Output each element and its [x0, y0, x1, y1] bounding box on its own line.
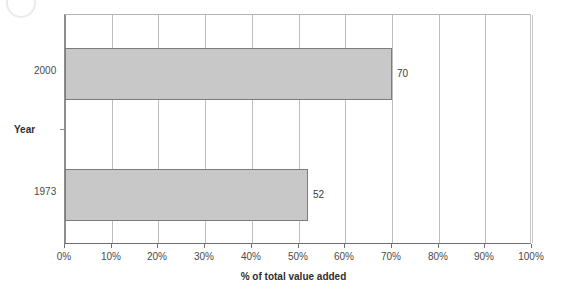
x-axis-tick-mark-20%: [157, 244, 158, 248]
x-axis-tick-label-30%: 30%: [194, 252, 214, 262]
bar-1973[interactable]: [65, 169, 308, 221]
bar-value-label-1973: 52: [313, 190, 324, 200]
plot-area: [64, 14, 531, 244]
gridline-100%: [532, 15, 533, 243]
x-axis-tick-label-100%: 100%: [518, 252, 544, 262]
x-axis-title: % of total value added: [0, 272, 563, 282]
x-axis-tick-label-80%: 80%: [428, 252, 448, 262]
x-axis-tick-mark-90%: [484, 244, 485, 248]
x-axis-tick-mark-80%: [438, 244, 439, 248]
horizontal-bar-chart: Year 2000 1973 70 52 0%10%20%30%40%50%60…: [0, 0, 563, 296]
x-axis-tick-label-90%: 90%: [474, 252, 494, 262]
bar-2000[interactable]: [65, 48, 392, 100]
x-axis-tick-label-60%: 60%: [334, 252, 354, 262]
x-axis-tick-mark-30%: [204, 244, 205, 248]
x-axis-tick-mark-100%: [531, 244, 532, 248]
x-axis-tick-label-0%: 0%: [57, 252, 71, 262]
x-axis-tick-label-20%: 20%: [147, 252, 167, 262]
x-axis-tick-mark-70%: [391, 244, 392, 248]
x-axis-tick-label-50%: 50%: [288, 252, 308, 262]
x-axis-tick-mark-40%: [251, 244, 252, 248]
x-axis-tick-mark-50%: [298, 244, 299, 248]
x-axis-tick-label-10%: 10%: [101, 252, 121, 262]
x-axis-tick-mark-60%: [344, 244, 345, 248]
x-axis-tick-label-40%: 40%: [241, 252, 261, 262]
x-axis-tick-label-70%: 70%: [381, 252, 401, 262]
x-axis-tick-mark-0%: [64, 244, 65, 248]
y-axis-title: Year: [14, 125, 35, 135]
x-axis-tick-mark-10%: [111, 244, 112, 248]
bars-layer: [65, 15, 530, 243]
bar-value-label-2000: 70: [397, 69, 408, 79]
